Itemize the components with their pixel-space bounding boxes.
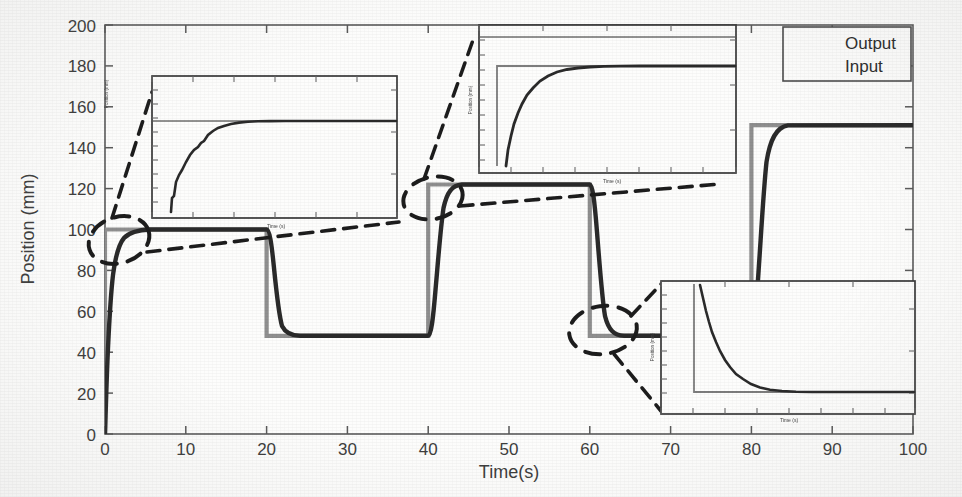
x-tick-label: 80 <box>742 440 761 459</box>
inset-1-ylabel: Position (mm) <box>104 79 109 108</box>
y-tick-label: 160 <box>68 98 96 117</box>
inset-3-frame <box>661 281 915 414</box>
y-tick-label: 40 <box>77 344 96 363</box>
y-axis-title: Position (mm) <box>18 173 38 284</box>
x-tick-label: 30 <box>338 440 357 459</box>
y-tick-label: 60 <box>77 303 96 322</box>
x-tick-label: 60 <box>580 440 599 459</box>
legend-label-input: Input <box>845 57 883 76</box>
inset-1-xlabel: Time (s) <box>267 223 285 229</box>
x-tick-label: 0 <box>100 440 109 459</box>
inset-3-ylabel: Position (mm) <box>650 332 655 361</box>
legend: Output Input <box>783 27 911 81</box>
x-tick-label: 50 <box>500 440 519 459</box>
y-tick-label: 80 <box>77 262 96 281</box>
inset-2-ylabel: Position (mm) <box>468 85 473 114</box>
x-tick-label: 100 <box>899 440 927 459</box>
y-tick-label: 200 <box>68 17 96 36</box>
x-tick-label: 90 <box>823 440 842 459</box>
inset-step-3: Position (mm) Time (s) <box>650 281 915 423</box>
y-tick-label: 120 <box>68 180 96 199</box>
figure-canvas: 0 10 20 30 40 50 60 70 80 90 100 0 20 40… <box>0 0 962 497</box>
inset-2-xlabel: Time (s) <box>603 178 621 184</box>
y-tick-label: 180 <box>68 57 96 76</box>
x-tick-label: 40 <box>419 440 438 459</box>
inset-step-2: Position (mm) Time (s) <box>468 25 736 184</box>
y-tick-label: 0 <box>87 426 96 445</box>
inset-2-frame <box>479 25 736 173</box>
legend-label-output: Output <box>845 34 896 53</box>
inset-3-xlabel: Time (s) <box>780 417 798 423</box>
x-tick-label: 20 <box>257 440 276 459</box>
y-tick-label: 140 <box>68 139 96 158</box>
x-tick-label: 70 <box>661 440 680 459</box>
x-axis-title: Time(s) <box>479 462 539 482</box>
inset-1-frame <box>152 76 397 218</box>
x-tick-label: 10 <box>176 440 195 459</box>
y-tick-label: 20 <box>77 385 96 404</box>
